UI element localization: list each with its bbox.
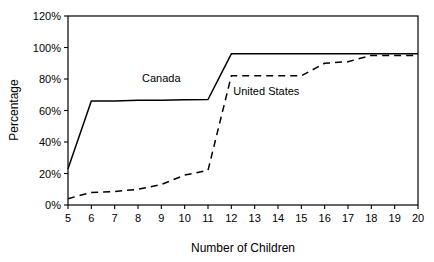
y-tick-label: 60% bbox=[39, 105, 61, 117]
x-tick-label: 11 bbox=[202, 212, 213, 224]
x-tick-label: 10 bbox=[179, 212, 191, 224]
y-tick-label: 20% bbox=[39, 168, 61, 180]
x-tick-label: 7 bbox=[112, 212, 118, 224]
x-tick-label: 15 bbox=[295, 212, 307, 224]
data-series-group bbox=[68, 54, 418, 199]
x-tick-label: 17 bbox=[342, 212, 354, 224]
y-tick-label: 0% bbox=[45, 199, 61, 211]
x-axis-title: Number of Children bbox=[191, 241, 295, 255]
x-tick-label: 6 bbox=[88, 212, 94, 224]
series-label-canada: Canada bbox=[142, 72, 181, 84]
chart-container: 0%20%40%60%80%100%120% 56789101112131415… bbox=[0, 0, 434, 262]
series-label-united-states: United States bbox=[233, 85, 300, 97]
series-line-united-states bbox=[68, 55, 418, 198]
y-tick-label: 80% bbox=[39, 73, 61, 85]
plot-area-border bbox=[68, 16, 418, 205]
y-axis-title: Percentage bbox=[7, 79, 21, 141]
series-line-canada bbox=[68, 54, 418, 169]
x-tick-label: 8 bbox=[135, 212, 141, 224]
y-axis-ticks: 0%20%40%60%80%100%120% bbox=[33, 10, 68, 211]
y-tick-label: 120% bbox=[33, 10, 61, 22]
x-tick-label: 9 bbox=[158, 212, 164, 224]
x-tick-label: 5 bbox=[65, 212, 71, 224]
line-chart: 0%20%40%60%80%100%120% 56789101112131415… bbox=[0, 0, 434, 262]
x-tick-label: 18 bbox=[365, 212, 377, 224]
series-annotations: CanadaUnited States bbox=[142, 72, 300, 97]
x-tick-label: 16 bbox=[319, 212, 331, 224]
y-tick-label: 100% bbox=[33, 42, 61, 54]
x-tick-label: 12 bbox=[225, 212, 237, 224]
x-tick-label: 19 bbox=[389, 212, 401, 224]
x-tick-label: 13 bbox=[249, 212, 261, 224]
x-axis-ticks: 567891011121314151617181920 bbox=[65, 205, 424, 224]
x-tick-label: 14 bbox=[272, 212, 284, 224]
y-tick-label: 40% bbox=[39, 136, 61, 148]
x-tick-label: 20 bbox=[412, 212, 424, 224]
